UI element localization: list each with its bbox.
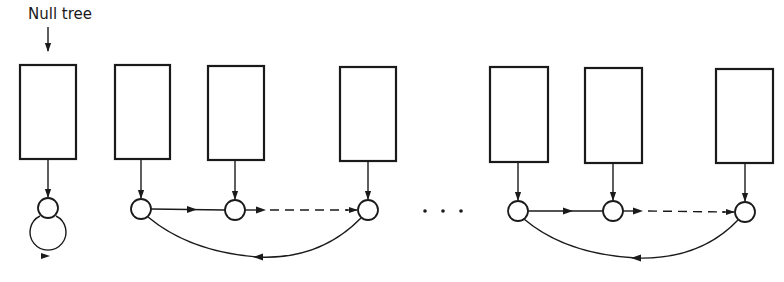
arrowhead — [633, 208, 643, 215]
arrowhead — [187, 206, 197, 213]
box-null-tree — [20, 65, 76, 159]
arrowhead — [563, 208, 573, 215]
arrowhead — [256, 207, 266, 214]
self-loop-arrowhead — [41, 253, 50, 259]
ellipsis-dot — [441, 209, 445, 213]
node-1b — [225, 200, 245, 220]
boxes — [20, 65, 773, 163]
list-2 — [524, 208, 738, 262]
node-2b — [603, 201, 623, 221]
self-loop-arc — [30, 216, 66, 250]
node-1a — [131, 199, 151, 219]
null-tree-label: Null tree — [28, 5, 92, 23]
node-1c — [358, 200, 378, 220]
nodes — [38, 198, 755, 222]
node-null-tree — [38, 198, 58, 218]
node-2c — [735, 202, 755, 222]
box-5 — [490, 67, 548, 162]
box-7 — [716, 69, 773, 163]
box-2 — [115, 65, 170, 159]
return-arc-1 — [148, 217, 361, 257]
box-4 — [340, 67, 396, 161]
ellipsis-dot — [423, 209, 427, 213]
arrowhead — [631, 255, 641, 262]
list-1 — [148, 206, 361, 261]
return-arc-2 — [524, 219, 738, 258]
null-tree-self-loop — [30, 216, 66, 259]
ellipsis — [423, 209, 463, 213]
node-2a — [508, 201, 528, 221]
box-6 — [585, 68, 642, 163]
box-to-node-arrows — [48, 159, 745, 201]
arrowhead — [253, 254, 263, 261]
box-3 — [208, 66, 264, 160]
dashed-link-2b-2c — [648, 211, 725, 212]
tree-list-diagram: Null tree — [0, 0, 784, 282]
ellipsis-dot — [459, 209, 463, 213]
